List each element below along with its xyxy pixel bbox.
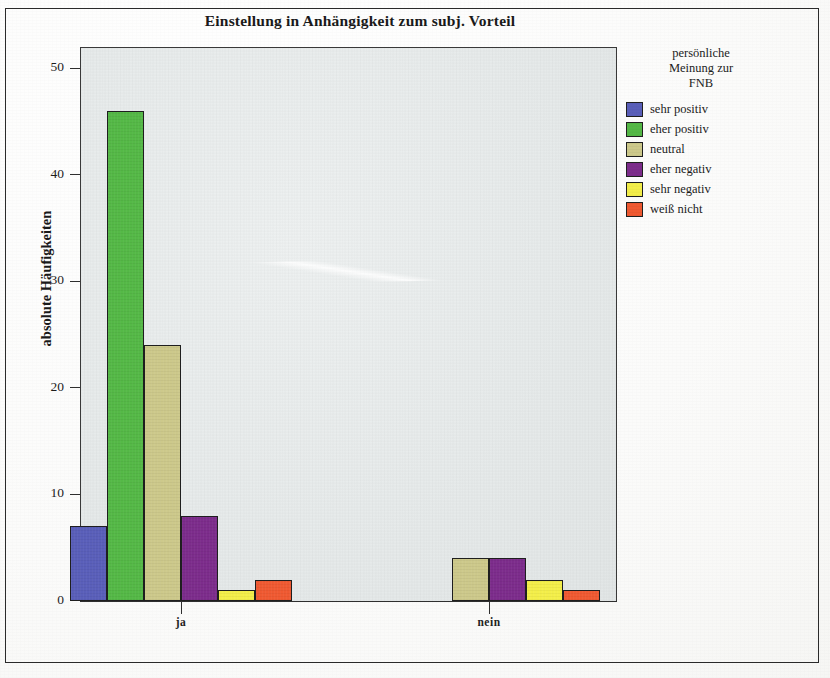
legend-item[interactable]: weiß nicht [626, 200, 816, 219]
legend-swatch [626, 142, 643, 157]
legend-title-line: FNB [626, 76, 776, 91]
legend-items: sehr positiveher positivneutraleher nega… [626, 100, 816, 219]
legend: persönlicheMeinung zurFNB sehr positiveh… [626, 46, 816, 219]
legend-item[interactable]: eher negativ [626, 160, 816, 179]
x-axis-tick-label: nein [449, 616, 529, 628]
legend-swatch-texture [627, 103, 642, 116]
legend-item[interactable]: neutral [626, 140, 816, 159]
legend-swatch-texture [627, 203, 642, 216]
scan-crease [81, 255, 618, 288]
bar [489, 558, 526, 601]
legend-item-label: eher negativ [650, 162, 711, 177]
scanned-page: Einstellung in Anhängigkeit zum subj. Vo… [0, 0, 830, 678]
y-axis-tick [70, 387, 80, 388]
legend-swatch [626, 162, 643, 177]
legend-title-line: persönliche [626, 46, 776, 61]
bar-texture [527, 581, 562, 600]
y-axis-title: absolute Häufigkeiten [38, 149, 55, 409]
legend-swatch [626, 122, 643, 137]
y-axis-tick [70, 68, 80, 69]
legend-title: persönlicheMeinung zurFNB [626, 46, 776, 91]
legend-item-label: eher positiv [650, 122, 709, 137]
bar [255, 580, 292, 601]
legend-item[interactable]: sehr negativ [626, 180, 816, 199]
legend-item-label: sehr negativ [650, 182, 711, 197]
bar [70, 526, 107, 601]
x-axis-tick [489, 601, 490, 614]
legend-swatch [626, 202, 643, 217]
chart-title: Einstellung in Anhängigkeit zum subj. Vo… [80, 12, 640, 30]
y-axis-tick-label: 50 [18, 59, 64, 75]
legend-swatch-texture [627, 163, 642, 176]
legend-item[interactable]: eher positiv [626, 120, 816, 139]
legend-swatch-texture [627, 183, 642, 196]
y-axis-tick-label: 0 [18, 592, 64, 608]
bar-texture [182, 517, 217, 600]
bar [107, 111, 144, 601]
legend-item[interactable]: sehr positiv [626, 100, 816, 119]
y-axis-tick [70, 174, 80, 175]
legend-title-line: Meinung zur [626, 61, 776, 76]
bar-texture [71, 527, 106, 600]
legend-item-label: neutral [650, 142, 685, 157]
y-axis-tick-label: 10 [18, 485, 64, 501]
bar-texture [490, 559, 525, 600]
legend-swatch [626, 102, 643, 117]
x-axis-tick [181, 601, 182, 614]
bar [218, 590, 255, 601]
bar [526, 580, 563, 601]
y-axis-tick [70, 281, 80, 282]
bar-texture [145, 346, 180, 600]
x-axis-tick-label: ja [141, 616, 221, 628]
bar-texture [564, 591, 599, 600]
legend-item-label: sehr positiv [650, 102, 708, 117]
bar-texture [453, 559, 488, 600]
bar [144, 345, 181, 601]
bar [563, 590, 600, 601]
legend-swatch-texture [627, 123, 642, 136]
bar-texture [108, 112, 143, 600]
bar-texture [219, 591, 254, 600]
bar [181, 516, 218, 601]
legend-swatch [626, 182, 643, 197]
bar-texture [256, 581, 291, 600]
legend-swatch-texture [627, 143, 642, 156]
bar [452, 558, 489, 601]
y-axis-tick [70, 494, 80, 495]
legend-item-label: weiß nicht [650, 202, 702, 217]
